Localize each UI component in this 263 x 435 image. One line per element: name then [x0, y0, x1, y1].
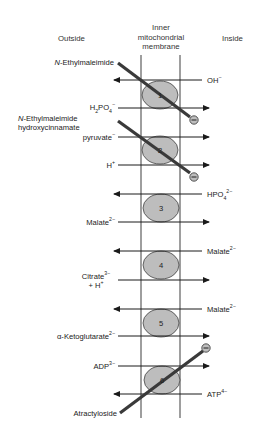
- substrate-h-plus: H+: [106, 161, 115, 170]
- substrate-citrate: Citrate3− + H+: [78, 272, 114, 290]
- diagram-graphics: [0, 0, 263, 435]
- substrate-malate-out-4: Malate2−: [207, 247, 236, 256]
- header-membrane-line3: membrane: [125, 42, 197, 52]
- header-membrane-line2: mitochondrial: [125, 33, 197, 43]
- header-inside: Inside: [222, 34, 243, 44]
- inhibitor-label-atractyloside: Atractyloside: [74, 409, 117, 418]
- substrate-hpo4: HPO42−: [207, 190, 232, 199]
- header-membrane-line1: Inner: [125, 23, 197, 33]
- transporter-6-label: 6: [157, 376, 167, 385]
- inhibitor-label-nem-2-line1: N-Ethylmaleimide: [18, 114, 80, 123]
- substrate-alpha-ketoglutarate: α-Ketoglutarate2−: [57, 332, 115, 341]
- transporter-1-label: 1: [155, 91, 165, 100]
- transporter-2-label: 2: [155, 146, 165, 155]
- header-membrane: Inner mitochondrial membrane: [125, 23, 197, 52]
- inhibitor-label-nem-1: N-Ethylmaleimide: [54, 58, 114, 67]
- substrate-malate-in: Malate2−: [86, 218, 115, 227]
- substrate-malate-out-5: Malate2−: [207, 305, 236, 314]
- substrate-adp: ADP3−: [93, 362, 115, 371]
- inhibitor-label-nem-2-line2: hydroxycinnamate: [18, 123, 80, 132]
- header-outside: Outside: [58, 34, 85, 44]
- substrate-h2po4: H2PO4−: [90, 103, 115, 112]
- substrate-pyruvate: pyruvate−: [83, 133, 115, 142]
- substrate-atp: ATP4−: [207, 390, 227, 399]
- substrate-oh: OH−: [207, 76, 221, 85]
- mitochondrial-transport-diagram: Outside Inner mitochondrial membrane Ins…: [0, 0, 263, 435]
- transporter-3-label: 3: [156, 204, 166, 213]
- transporter-4-label: 4: [156, 261, 166, 270]
- inhibitor-label-nem-2: N-Ethylmaleimide hydroxycinnamate: [18, 114, 80, 132]
- transporter-5-label: 5: [156, 319, 166, 328]
